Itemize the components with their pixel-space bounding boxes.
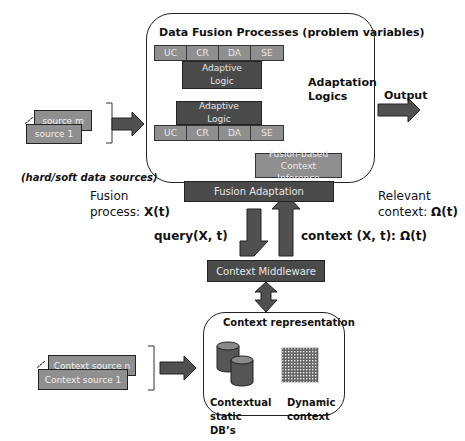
dynamic-context-label: Dynamic context [287,396,333,424]
static-db-label: Contextual static DB’s [210,396,270,438]
grid-icon [282,348,318,382]
context-source-1: Context source 1 [38,369,128,390]
